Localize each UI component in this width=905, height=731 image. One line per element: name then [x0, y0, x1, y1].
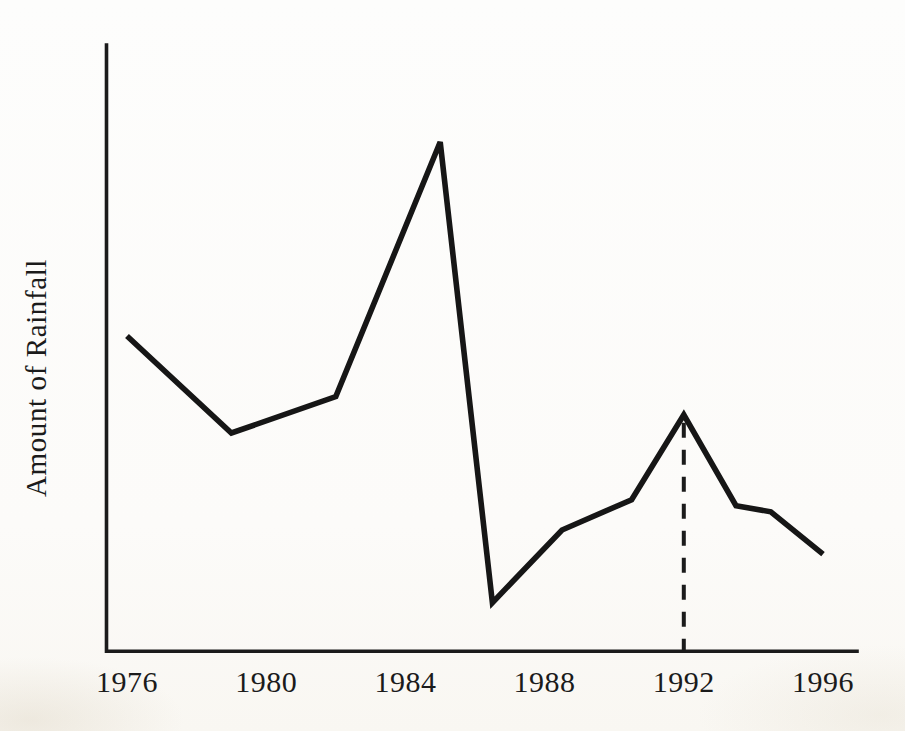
x-tick-label-1980: 1980: [235, 665, 297, 698]
y-axis-label: Amount of Rainfall: [20, 259, 52, 497]
rainfall-line-chart: 197619801984198819921996 Amount of Rainf…: [0, 0, 905, 731]
rainfall-line: [127, 142, 823, 603]
scanned-rainfall-chart-page: 197619801984198819921996 Amount of Rainf…: [0, 0, 905, 731]
x-tick-label-1976: 1976: [96, 665, 158, 698]
x-tick-label-1988: 1988: [514, 665, 576, 698]
x-tick-label-1996: 1996: [792, 665, 854, 698]
x-axis-tick-labels: 197619801984198819921996: [96, 665, 854, 698]
x-tick-label-1984: 1984: [374, 665, 436, 698]
axes-lines: [107, 45, 858, 651]
x-tick-label-1992: 1992: [653, 665, 715, 698]
